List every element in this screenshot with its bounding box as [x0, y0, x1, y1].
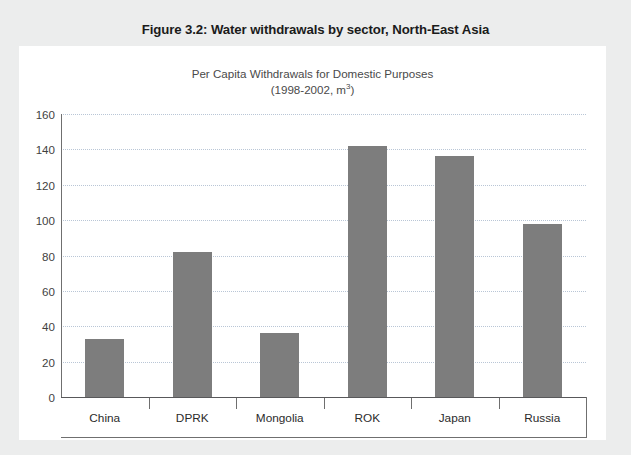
x-axis-label-dprk: DPRK — [176, 411, 209, 425]
bar-russia[interactable] — [523, 224, 562, 397]
chart-subtitle: Per Capita Withdrawals for Domestic Purp… — [19, 66, 606, 98]
x-axis-tick — [411, 398, 412, 409]
x-axis-tick — [236, 398, 237, 409]
gridline — [61, 291, 586, 292]
x-axis-label-japan: Japan — [439, 411, 471, 425]
y-axis-tick-label: 120 — [15, 178, 55, 191]
bar-mongolia[interactable] — [260, 333, 299, 397]
y-axis-tick-label: 140 — [15, 143, 55, 156]
y-axis-tick-label: 80 — [15, 249, 55, 262]
y-axis-tick-label: 160 — [15, 108, 55, 121]
y-axis-tick-label: 0 — [15, 391, 55, 404]
y-axis-tick-label: 20 — [15, 355, 55, 368]
gridline — [61, 256, 586, 257]
chart-subtitle-period-prefix: (1998-2002, m — [271, 83, 346, 96]
gridline — [61, 326, 586, 327]
chart-subtitle-line-2: (1998-2002, m3) — [19, 82, 606, 98]
x-axis-tick — [324, 398, 325, 409]
plot-area — [61, 114, 586, 397]
x-axis-bottom-rule — [61, 437, 587, 438]
bar-dprk[interactable] — [173, 252, 212, 397]
x-axis-label-mongolia: Mongolia — [256, 411, 304, 425]
chart-subtitle-line-1: Per Capita Withdrawals for Domestic Purp… — [192, 67, 434, 80]
bar-china[interactable] — [85, 339, 124, 397]
x-axis-tick — [149, 398, 150, 409]
y-axis-tick-labels: 020406080100120140160 — [11, 114, 55, 397]
gridline — [61, 185, 586, 186]
gridline — [61, 114, 586, 115]
x-axis-label-china: China — [89, 411, 120, 425]
bar-rok[interactable] — [348, 146, 387, 397]
y-axis-tick-label: 60 — [15, 284, 55, 297]
x-axis-label-rok: ROK — [354, 411, 380, 425]
x-axis-label-russia: Russia — [524, 411, 560, 425]
gridline — [61, 220, 586, 221]
figure-root: Figure 3.2: Water withdrawals by sector,… — [0, 0, 631, 455]
bar-japan[interactable] — [435, 156, 474, 397]
y-axis-line — [61, 114, 62, 398]
x-axis-category-row: ChinaDPRKMongoliaROKJapanRussia — [61, 398, 587, 438]
y-axis-tick-label: 40 — [15, 320, 55, 333]
figure-title: Figure 3.2: Water withdrawals by sector,… — [0, 22, 631, 37]
chart-panel: Per Capita Withdrawals for Domestic Purp… — [19, 46, 606, 440]
x-axis-tick — [499, 398, 500, 409]
gridline — [61, 149, 586, 150]
chart-subtitle-period-suffix: ) — [350, 83, 354, 96]
gridline — [61, 362, 586, 363]
y-axis-tick-label: 100 — [15, 214, 55, 227]
